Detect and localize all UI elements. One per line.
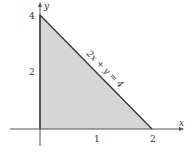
y-axis-arrow-icon xyxy=(38,2,42,7)
x-tick-2: 2 xyxy=(150,134,156,144)
y-axis-label: y xyxy=(43,1,50,11)
region-plot: x y 1 2 2 4 2x + y = 4 xyxy=(0,0,193,152)
y-tick-2: 2 xyxy=(29,67,35,77)
diagram: x y 1 2 2 4 2x + y = 4 xyxy=(0,0,193,152)
x-tick-1: 1 xyxy=(94,134,100,144)
y-tick-4: 4 xyxy=(29,11,35,21)
x-axis-label: x xyxy=(179,118,184,128)
